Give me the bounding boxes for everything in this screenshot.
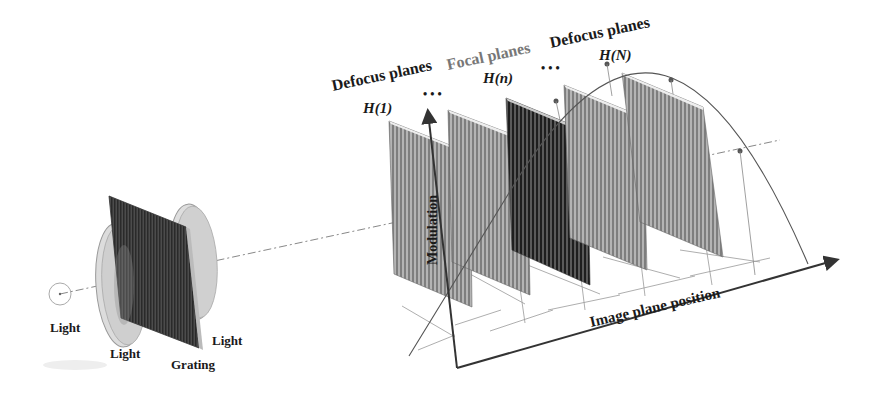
optical-setup-diagram: Light Light Grating Light xyxy=(0,0,882,395)
ellipsis-1: • • • xyxy=(423,87,442,101)
focal-planes-label: Focal planes xyxy=(445,39,532,74)
light-source xyxy=(49,283,71,305)
h1-label: H(1) xyxy=(362,100,392,117)
modulation-axis-label: Modulation xyxy=(425,195,440,265)
lens-1-label: Light xyxy=(110,346,141,361)
lens-2-label: Light xyxy=(212,333,243,348)
hN-label: H(N) xyxy=(598,47,632,64)
ellipsis-2: • • • xyxy=(541,61,560,75)
light-source-label: Light xyxy=(50,320,81,335)
hn-label: H(n) xyxy=(482,70,513,87)
defocus-planes-left-label: Defocus planes xyxy=(330,56,433,95)
grating-label: Grating xyxy=(171,357,216,372)
position-axis-label: Image plane position xyxy=(588,284,722,330)
